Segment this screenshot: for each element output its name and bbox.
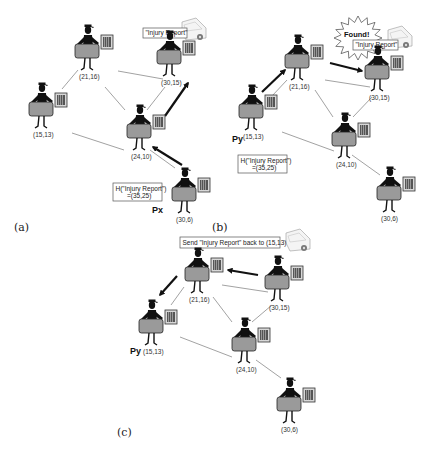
node-coordinate: (30,6)	[381, 215, 398, 223]
node-coordinate: (24,10)	[131, 153, 152, 161]
sensor-node-n15_13: (15,13)	[139, 300, 177, 357]
robot-figure-icon	[29, 83, 67, 129]
panel-c: Send "Injury Report" back to (15,13)(21,…	[117, 229, 315, 439]
routing-arrow	[228, 270, 258, 275]
message-text: Send "Injury Report" back to (15,13)	[183, 239, 287, 247]
sensor-node-n30_6: (30,6)	[172, 168, 210, 225]
agent-label: Py	[232, 134, 243, 144]
routing-arrow	[165, 83, 188, 116]
panel-label: (a)	[14, 221, 29, 234]
robot-figure-icon	[75, 25, 113, 71]
found-label: Found!	[344, 30, 369, 39]
panel-label: (b)	[212, 221, 228, 234]
node-coordinate: (15,13)	[143, 348, 164, 356]
hash-value-text: =(35,25)	[252, 164, 276, 172]
robot-figure-icon	[172, 168, 210, 214]
robot-figure-icon	[285, 35, 323, 81]
hash-value-text: =(35,25)	[127, 192, 151, 200]
robot-figure-icon	[185, 248, 223, 294]
node-coordinate: (21,16)	[289, 83, 310, 91]
network-link	[256, 360, 281, 378]
network-link	[272, 80, 287, 96]
node-coordinate: (30,6)	[176, 216, 193, 224]
network-link	[147, 87, 165, 110]
network-link	[105, 87, 125, 110]
sensor-node-n30_15: (30,15)	[265, 256, 303, 313]
panel-b: Found!"Injury Report"(21,16)(30,15)(15,1…	[212, 16, 415, 234]
sensor-node-n15_13: (15,13)	[29, 83, 67, 140]
robot-figure-icon	[377, 167, 415, 213]
network-link	[282, 132, 334, 151]
network-link	[171, 287, 184, 305]
node-coordinate: (15,13)	[33, 131, 54, 139]
network-link	[118, 71, 163, 79]
node-coordinate: (24,10)	[236, 366, 257, 374]
robot-figure-icon	[332, 113, 370, 159]
diagram-canvas: "Injury Report"(21,16)(30,15)(15,13)(24,…	[0, 0, 424, 449]
sensor-node-n30_6: (30,6)	[377, 167, 415, 224]
node-coordinate: (21,16)	[189, 296, 210, 304]
agent-label: Px	[152, 205, 163, 215]
network-link	[325, 80, 370, 87]
routing-arrow	[262, 70, 285, 92]
node-coordinate: (30,15)	[369, 94, 390, 102]
routing-arrow	[330, 63, 362, 71]
sensor-node-n24_10: (24,10)	[127, 105, 165, 162]
network-link	[72, 133, 124, 150]
robot-figure-icon	[232, 318, 270, 364]
network-link	[213, 297, 232, 322]
sensor-node-n30_6: (30,6)	[277, 378, 315, 435]
network-link	[315, 90, 333, 117]
robot-figure-icon	[127, 105, 165, 151]
robot-figure-icon	[139, 300, 177, 346]
network-link	[62, 70, 78, 89]
node-coordinate: (24,10)	[336, 161, 357, 169]
node-coordinate: (21,16)	[79, 73, 100, 81]
panel-label: (c)	[117, 426, 132, 439]
sensor-node-n21_16: (21,16)	[285, 35, 323, 92]
node-coordinate: (30,6)	[281, 426, 298, 434]
sensor-node-n15_13: (15,13)	[239, 85, 277, 142]
sensor-node-n24_10: (24,10)	[332, 113, 370, 170]
panel-a: "Injury Report"(21,16)(30,15)(15,13)(24,…	[14, 18, 210, 234]
node-coordinate: (30,15)	[269, 304, 290, 312]
robot-figure-icon	[277, 378, 315, 424]
sensor-node-n21_16: (21,16)	[185, 248, 223, 305]
node-coordinate: (15,13)	[243, 133, 264, 141]
sensor-node-n30_15: (30,15)	[365, 46, 403, 103]
robot-figure-icon	[265, 256, 303, 302]
node-coordinate: (30,15)	[161, 79, 182, 87]
network-link	[222, 285, 268, 292]
truck-icon	[286, 229, 310, 251]
robot-figure-icon	[239, 85, 277, 131]
routing-arrow	[160, 276, 177, 295]
sensor-node-n21_16: (21,16)	[75, 25, 113, 82]
network-link	[180, 337, 232, 357]
agent-label: Py	[130, 346, 141, 356]
